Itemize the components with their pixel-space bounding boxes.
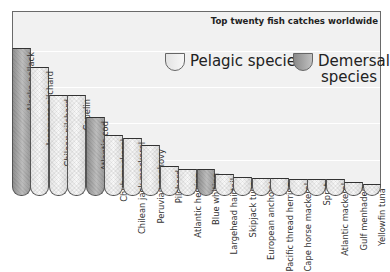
bar-label: Yellowfin tuna xyxy=(377,188,387,246)
legend-label-pelagic: Pelagic species xyxy=(190,53,304,69)
bar-label: Cape horse mackerel xyxy=(303,183,313,272)
bar-atlantic-cod: Atlantic cod xyxy=(86,117,105,196)
legend-demersal-line1: Demersal xyxy=(318,53,390,69)
bar-label: Pacific thread herring xyxy=(285,182,295,272)
bar-capelin: Capelin xyxy=(67,95,86,196)
bar-skipjack-tuna: Skipjack tuna xyxy=(233,177,252,196)
bar-european-anchovy: European anchovy xyxy=(252,178,271,196)
bar-cape-horse-mackerel: Cape horse mackerel xyxy=(289,179,308,196)
legend-pelagic: Pelagic species xyxy=(165,53,304,71)
pelagic-swatch-icon xyxy=(165,53,185,71)
bar-blue-whiting: Blue whiting xyxy=(197,169,216,196)
bar-largehead-hairtail: Largehead hairtail xyxy=(215,174,234,196)
bar-atlantic-mackerel: Atlantic mackerel xyxy=(326,179,345,196)
chart-title: Top twenty fish catches worldwide xyxy=(211,16,378,26)
bar-peruvian-anchovy: Peruvian anchovy xyxy=(141,145,160,196)
bar-label: Gulf menhaden xyxy=(359,186,369,251)
bar-atlantic-herring: Atlantic herring xyxy=(178,169,197,196)
bar-pacific-thread-herring: Pacific thread herring xyxy=(270,178,289,196)
gridline xyxy=(13,87,380,88)
bar-japanese-pilchard: Japanese pilchard xyxy=(30,67,49,196)
legend-demersal: Demersal species xyxy=(293,53,390,85)
bar-pilchard: Pilchard xyxy=(160,166,179,196)
legend-label-demersal: Demersal species xyxy=(318,53,390,85)
bar-alaska-pollack: Alaska pollack xyxy=(12,48,31,196)
bar-chub-mackerel: Chub mackerel xyxy=(104,135,123,196)
bar-gulf-menhaden: Gulf menhaden xyxy=(344,182,363,196)
bar-chilean-jack-mackerel: Chilean jack mackerel xyxy=(123,138,142,196)
bar-chilean-pilchard: Chilean pilchard xyxy=(49,95,68,196)
legend-demersal-line2: species xyxy=(318,69,390,85)
bar-sprat: Sprat xyxy=(307,179,326,196)
demersal-swatch-icon xyxy=(293,53,313,71)
